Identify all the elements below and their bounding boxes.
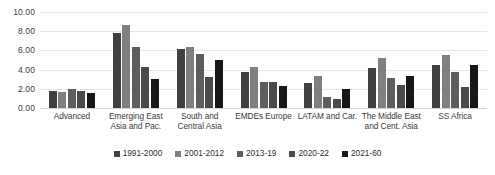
bar[interactable] <box>196 54 204 108</box>
bar[interactable] <box>470 65 478 108</box>
bar[interactable] <box>368 68 376 108</box>
axis-baseline <box>40 108 487 109</box>
bar[interactable] <box>314 76 322 108</box>
bar[interactable] <box>378 58 386 108</box>
bar[interactable] <box>141 67 149 108</box>
plot-area: 10.008.006.004.002.000.00 AdvancedEmergi… <box>0 0 495 122</box>
bar[interactable] <box>58 92 66 108</box>
legend-label: 2013-19 <box>246 149 276 158</box>
bar-group <box>423 12 487 108</box>
legend-swatch-icon <box>175 151 181 157</box>
bar[interactable] <box>342 89 350 108</box>
bar[interactable] <box>241 72 249 108</box>
bar-group <box>359 12 423 108</box>
bar[interactable] <box>451 72 459 108</box>
bar-group <box>104 12 168 108</box>
bar[interactable] <box>461 87 469 108</box>
legend-item[interactable]: 2001-2012 <box>175 149 224 158</box>
bar[interactable] <box>432 65 440 108</box>
bar[interactable] <box>260 82 268 108</box>
bar[interactable] <box>122 25 130 108</box>
x-axis-category-label: Advanced <box>40 111 104 131</box>
bar[interactable] <box>77 91 85 108</box>
y-axis-tick-label: 0.00 <box>18 104 35 113</box>
bar[interactable] <box>333 99 341 108</box>
x-axis-category-label: Emerging East Asia and Pac. <box>104 111 168 131</box>
bar[interactable] <box>215 60 223 108</box>
bar[interactable] <box>151 79 159 108</box>
legend-label: 2021-60 <box>351 149 381 158</box>
legend-swatch-icon <box>289 151 295 157</box>
x-axis-category-label: South and Central Asia <box>168 111 232 131</box>
legend-item[interactable]: 1991-2000 <box>114 149 163 158</box>
x-axis-category-labels: AdvancedEmerging East Asia and Pac.South… <box>40 111 487 131</box>
chart-legend: 1991-20002001-20122013-192020-222021-60 <box>0 149 495 158</box>
bar[interactable] <box>406 76 414 108</box>
bar[interactable] <box>279 86 287 108</box>
y-axis: 10.008.006.004.002.000.00 <box>0 0 38 108</box>
legend-swatch-icon <box>114 151 120 157</box>
y-axis-tick-label: 2.00 <box>18 84 35 93</box>
bar[interactable] <box>205 77 213 108</box>
bar[interactable] <box>304 83 312 108</box>
y-axis-tick-label: 8.00 <box>18 27 35 36</box>
bar[interactable] <box>87 93 95 108</box>
bar[interactable] <box>132 47 140 108</box>
bar-group <box>295 12 359 108</box>
bar[interactable] <box>177 49 185 108</box>
bar[interactable] <box>442 55 450 108</box>
bar-group <box>232 12 296 108</box>
x-axis-category-label: EMDEs Europe <box>232 111 296 131</box>
bar[interactable] <box>68 89 76 108</box>
bar[interactable] <box>186 47 194 108</box>
bar-chart: 10.008.006.004.002.000.00 AdvancedEmergi… <box>0 0 495 175</box>
y-axis-tick-label: 4.00 <box>18 65 35 74</box>
y-axis-tick-label: 6.00 <box>18 46 35 55</box>
x-axis-category-label: The Middle East and Cent. Asia <box>359 111 423 131</box>
legend-item[interactable]: 2013-19 <box>237 149 276 158</box>
bar[interactable] <box>269 82 277 108</box>
legend-label: 2020-22 <box>298 149 328 158</box>
bar[interactable] <box>250 67 258 108</box>
bar-group <box>168 12 232 108</box>
bar[interactable] <box>49 91 57 108</box>
x-axis-category-label: SS Africa <box>423 111 487 131</box>
bars-layer <box>40 12 487 108</box>
bar[interactable] <box>113 33 121 108</box>
legend-item[interactable]: 2020-22 <box>289 149 328 158</box>
legend-item[interactable]: 2021-60 <box>342 149 381 158</box>
legend-label: 2001-2012 <box>184 149 224 158</box>
bar[interactable] <box>323 97 331 108</box>
x-axis-category-label: LATAM and Car. <box>295 111 359 131</box>
legend-swatch-icon <box>237 151 243 157</box>
legend-label: 1991-2000 <box>123 149 163 158</box>
bar-group <box>40 12 104 108</box>
y-axis-tick-label: 10.00 <box>13 8 35 17</box>
legend-swatch-icon <box>342 151 348 157</box>
bar[interactable] <box>397 85 405 108</box>
bar[interactable] <box>387 78 395 108</box>
